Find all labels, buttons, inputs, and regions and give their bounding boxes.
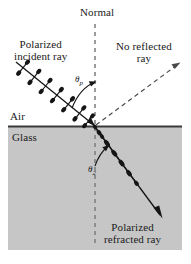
incident-ray-label-line2: incident ray <box>14 51 67 63</box>
glass-medium-label: Glass <box>12 132 37 144</box>
normal-label: Normal <box>80 7 114 19</box>
theta-p-subscript: p <box>80 79 84 87</box>
brewster-angle-diagram: Normal Polarized incident ray No reflect… <box>0 0 191 264</box>
no-reflected-ray-label: No reflected ray <box>116 41 172 65</box>
incident-ray-label: Polarized incident ray <box>14 39 67 63</box>
theta-2-label: θ2 <box>88 165 96 177</box>
air-medium-label: Air <box>10 111 25 123</box>
no-reflected-ray <box>96 63 181 126</box>
refracted-ray-label-line2: refracted ray <box>104 234 161 246</box>
theta-p-label: θp <box>75 75 83 87</box>
no-reflected-ray-label-line2: ray <box>116 53 172 65</box>
theta-2-subscript: 2 <box>93 169 97 177</box>
refracted-ray-label: Polarized refracted ray <box>104 222 161 246</box>
incident-ray <box>15 59 96 130</box>
